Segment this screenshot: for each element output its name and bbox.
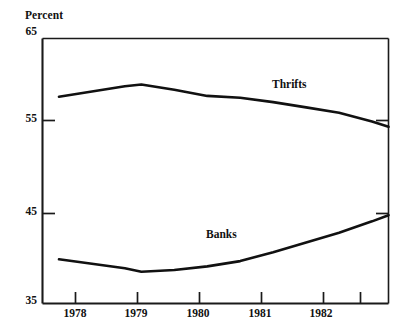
percent-line-chart: Percent 65 55 45 35 1978 1979 1980 1981 … [0, 0, 409, 329]
x-tick-label-1981: 1981 [238, 307, 282, 319]
x-tick-label-1978: 1978 [53, 307, 97, 319]
x-tick-label-1980: 1980 [176, 307, 220, 319]
y-tick-label-45: 45 [13, 205, 37, 217]
y-axis-title: Percent [25, 9, 63, 21]
x-tick-label-1982: 1982 [299, 307, 343, 319]
series-annotation-thrifts: Thrifts [272, 78, 307, 90]
x-tick-label-1979: 1979 [114, 307, 158, 319]
series-line-banks [59, 215, 389, 272]
y-tick-label-35: 35 [13, 294, 37, 306]
x-tick-marks [76, 292, 361, 304]
series-line-thrifts [59, 84, 389, 126]
y-tick-marks [43, 121, 389, 214]
series-annotation-banks: Banks [206, 228, 237, 240]
chart-canvas [0, 0, 409, 329]
y-tick-label-55: 55 [13, 112, 37, 124]
y-tick-label-65: 65 [13, 25, 37, 37]
